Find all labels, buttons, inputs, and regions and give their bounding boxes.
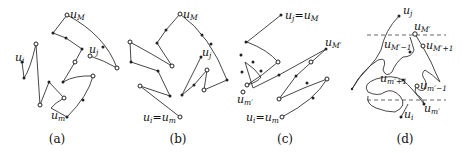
polyline-path: [130, 14, 227, 117]
label-u-M: uM: [183, 8, 198, 22]
figure-canvas: ui uM uj um (a): [0, 0, 466, 153]
label-u-i-eq-u-m: ui=um: [246, 111, 279, 125]
panel-b: uM uj ui=um (b): [128, 8, 229, 146]
label-u-m-prime: um′: [424, 102, 440, 116]
label-u-j: uj: [89, 43, 99, 57]
label-u-M-prime-plus-1: uM′+1: [426, 39, 454, 53]
label-u-M-prime: uM′: [414, 20, 431, 34]
label-u-i: ui: [404, 108, 414, 122]
panel-d: uj uM′ uM′−1 uM′+1 um′+1 um′−1 um′ ui (d…: [351, 4, 454, 146]
panel-c: uj=uM uM′ um′ ui=um (c): [237, 9, 342, 146]
caption-b: (b): [169, 132, 186, 146]
polyline-path: [22, 15, 117, 117]
label-u-M-prime: uM′: [325, 36, 342, 50]
label-u-M: uM: [70, 8, 85, 22]
label-u-m-prime: um′: [237, 93, 253, 107]
label-u-i-eq-u-m: ui=um: [143, 111, 176, 125]
label-u-m: um: [51, 109, 65, 123]
label-u-j-eq-u-M: uj=uM: [285, 9, 319, 23]
vertices: [128, 12, 229, 119]
caption-a: (a): [49, 132, 66, 146]
vertices: [21, 13, 120, 119]
vertices: [240, 14, 330, 120]
caption-d: (d): [396, 132, 413, 146]
label-u-m-prime-plus-1: um′+1: [380, 72, 407, 86]
polyline-path: [245, 15, 327, 117]
label-u-j: uj: [403, 4, 413, 18]
label-u-m-prime-minus-1: um′−1: [420, 79, 447, 93]
figure: ui uM uj um (a): [0, 0, 466, 153]
label-u-i: ui: [15, 51, 25, 65]
caption-c: (c): [277, 132, 293, 146]
panel-a: ui uM uj um (a): [15, 8, 119, 146]
label-u-j: uj: [202, 46, 212, 60]
label-u-M-prime-minus-1: uM′−1: [384, 38, 412, 52]
